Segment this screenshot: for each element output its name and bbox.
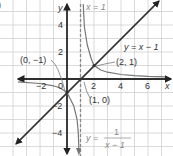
curve-label-lhs: y = xyxy=(85,133,98,143)
point-label-1-0: (1, 0) xyxy=(89,95,110,105)
point-label-2-1: (2, 1) xyxy=(116,57,137,67)
tick-y-neg4: −4 xyxy=(52,128,62,138)
tick-x-0: 0 xyxy=(58,81,63,91)
tick-y-4: 4 xyxy=(58,20,63,30)
tick-x-neg2: −2 xyxy=(36,81,46,91)
tick-y-2: 2 xyxy=(58,47,63,57)
tick-y-neg2: −2 xyxy=(52,101,62,111)
x-axis-label: x xyxy=(164,81,170,91)
point-label-0-neg1: (0, −1) xyxy=(20,55,46,65)
graph-canvas: ) −2 0 2 4 6 x y 4 2 −2 −4 x = 1 y = x −… xyxy=(0,0,173,156)
curve-label-den: x − 1 xyxy=(104,140,125,150)
tick-x-6: 6 xyxy=(145,81,150,91)
hyperbola-left-branch xyxy=(18,82,79,150)
y-axis-label: y xyxy=(57,3,63,13)
curve-label-num: 1 xyxy=(114,127,119,137)
asymptote-label: x = 1 xyxy=(85,2,106,12)
graph-figure: ) −2 0 2 4 6 x y 4 2 −2 −4 x = 1 y = x −… xyxy=(0,0,173,156)
tick-x-2: 2 xyxy=(91,81,96,91)
tick-x-4: 4 xyxy=(118,81,123,91)
line-label: y = x − 1 xyxy=(123,42,159,52)
part-label: ) xyxy=(0,0,1,10)
